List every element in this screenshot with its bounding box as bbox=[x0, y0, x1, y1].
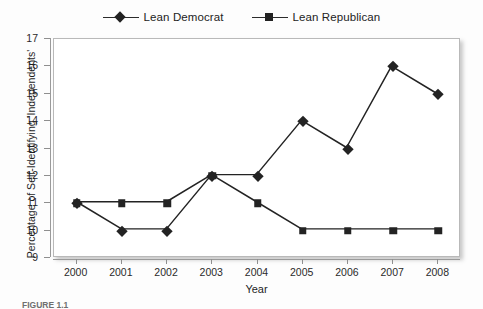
y-tick-13 bbox=[44, 148, 50, 149]
x-tick-2008 bbox=[437, 259, 438, 264]
x-tick-label-2004: 2004 bbox=[235, 266, 279, 278]
data-point-marker bbox=[163, 200, 171, 208]
x-tick-label-2008: 2008 bbox=[415, 266, 459, 278]
y-tick-11 bbox=[44, 202, 50, 203]
plot-area bbox=[54, 39, 459, 256]
data-point-marker bbox=[344, 227, 352, 235]
legend-label-lean-democrat: Lean Democrat bbox=[144, 11, 224, 23]
x-tick-label-2002: 2002 bbox=[144, 266, 188, 278]
y-tick-15 bbox=[44, 93, 50, 94]
y-tick-9 bbox=[44, 257, 50, 258]
legend-entry-lean-republican: Lean Republican bbox=[252, 11, 381, 23]
x-tick-2007 bbox=[392, 259, 393, 264]
figure-caption: FIGURE 1.1 bbox=[22, 300, 462, 309]
x-tick-2005 bbox=[302, 259, 303, 264]
x-tick-label-2000: 2000 bbox=[54, 266, 98, 278]
data-point-marker bbox=[209, 172, 217, 180]
y-tick-10 bbox=[44, 230, 50, 231]
chart-legend: Lean Democrat Lean Republican bbox=[0, 7, 483, 27]
y-tick-14 bbox=[44, 120, 50, 121]
data-point-marker bbox=[118, 200, 126, 208]
x-tick-label-2005: 2005 bbox=[280, 266, 324, 278]
diamond-marker-icon bbox=[103, 12, 139, 23]
data-point-marker bbox=[389, 227, 397, 235]
x-axis-title: Year bbox=[53, 283, 460, 295]
y-axis-title: Percentage of Self-Identifying 'Independ… bbox=[25, 39, 37, 269]
data-point-marker bbox=[254, 200, 262, 208]
y-tick-12 bbox=[44, 175, 50, 176]
legend-label-lean-republican: Lean Republican bbox=[293, 11, 381, 23]
x-tick-2000 bbox=[76, 259, 77, 264]
x-tick-2001 bbox=[121, 259, 122, 264]
data-point-marker bbox=[73, 200, 81, 208]
x-tick-2004 bbox=[257, 259, 258, 264]
x-tick-label-2007: 2007 bbox=[370, 266, 414, 278]
data-point-marker bbox=[435, 227, 443, 235]
figure-container: Lean Democrat Lean Republican 9101112131… bbox=[0, 0, 483, 309]
y-axis-spine bbox=[50, 38, 51, 257]
plot-frame bbox=[53, 38, 460, 257]
y-tick-17 bbox=[44, 38, 50, 39]
x-tick-2002 bbox=[166, 259, 167, 264]
x-tick-2006 bbox=[347, 259, 348, 264]
square-marker-icon bbox=[252, 12, 288, 23]
data-point-marker bbox=[299, 227, 307, 235]
x-tick-label-2001: 2001 bbox=[99, 266, 143, 278]
x-tick-label-2003: 2003 bbox=[189, 266, 233, 278]
y-tick-16 bbox=[44, 65, 50, 66]
legend-entry-lean-democrat: Lean Democrat bbox=[103, 11, 224, 23]
x-tick-label-2006: 2006 bbox=[325, 266, 369, 278]
x-tick-2003 bbox=[211, 259, 212, 264]
